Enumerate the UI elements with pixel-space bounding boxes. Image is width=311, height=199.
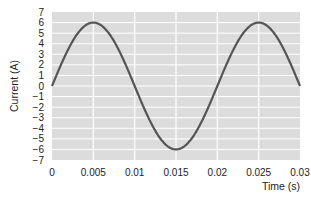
x-tick-label: 0 [49,167,55,178]
x-tick-label: 0.01 [125,167,145,178]
y-axis-label: Current (A) [8,60,20,112]
y-tick-label: 7 [38,7,44,18]
y-tick-label: 5 [38,28,44,39]
y-tick-label: −4 [33,123,45,134]
y-tick-label: −1 [33,91,45,102]
x-tick-label: 0.015 [163,167,188,178]
y-tick-label: −3 [33,112,45,123]
x-tick-label: 0.03 [290,167,310,178]
y-tick-label: 2 [38,59,44,70]
current-vs-time-chart: 76543210−1−2−3−4−5−6−7 00.0050.010.0150.… [0,0,311,199]
y-tick-label: 3 [38,49,44,60]
y-tick-label: −7 [33,155,45,166]
x-axis-label: Time (s) [262,180,300,192]
x-tick-label: 0.02 [208,167,228,178]
y-tick-label: 4 [38,38,44,49]
y-tick-label: −2 [33,102,45,113]
y-tick-label: 1 [38,70,44,81]
y-tick-label: −6 [33,144,45,155]
y-tick-label: 6 [38,17,44,28]
y-tick-label: 0 [38,81,44,92]
y-axis-ticks: 76543210−1−2−3−4−5−6−7 [33,7,45,166]
x-tick-label: 0.005 [81,167,106,178]
y-tick-label: −5 [33,133,45,144]
x-tick-label: 0.025 [246,167,271,178]
x-axis-ticks: 00.0050.010.0150.020.0250.03 [49,167,310,178]
